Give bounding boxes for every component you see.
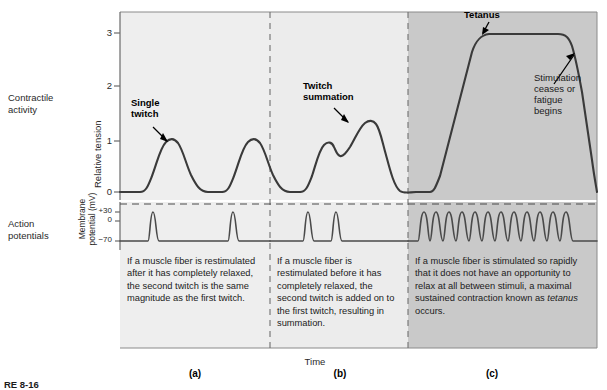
- annotation-single-twitch: Singletwitch: [131, 97, 160, 119]
- panel-c-caption-after: occurs.: [415, 306, 445, 316]
- membrane-tick-label-plus30: +30: [88, 206, 112, 215]
- x-axis-label-time: Time: [285, 356, 345, 367]
- annotation-twitch-summation: Twitchsummation: [303, 80, 354, 102]
- tension-tick-label-2: 2: [90, 80, 112, 91]
- panel-c-caption-italic-term: tetanus: [547, 293, 578, 303]
- annotation-stimulation-ceases: Stimulationceases orfatiguebegins: [534, 72, 581, 116]
- tension-tick-label-3: 3: [90, 27, 112, 38]
- panel-letter-a: (a): [175, 368, 215, 379]
- muscle-twitch-figure: Contractileactivity Actionpotentials Rel…: [0, 0, 607, 390]
- tension-tick-label-1: 1: [90, 135, 112, 146]
- figure-number: RE 8-16: [4, 379, 39, 390]
- panel-c-background-ap: [408, 202, 597, 250]
- panel-a-background-ap: [120, 202, 270, 250]
- membrane-tick-label-minus70: −70: [88, 235, 112, 244]
- membrane-tick-label-0: 0: [88, 215, 112, 224]
- tension-tick-label-0: 0: [90, 186, 112, 197]
- annotation-tetanus: Tetanus: [464, 9, 500, 20]
- panel-letter-c: (c): [472, 368, 512, 379]
- panel-a-caption: If a muscle fiber is restimulated after …: [127, 255, 265, 305]
- panel-b-background-tension: [270, 12, 408, 200]
- panel-c-caption: If a muscle fiber is stimulated so rapid…: [415, 255, 593, 317]
- panel-letter-b: (b): [320, 368, 360, 379]
- panel-b-caption: If a muscle fiber is restimulated before…: [277, 255, 401, 329]
